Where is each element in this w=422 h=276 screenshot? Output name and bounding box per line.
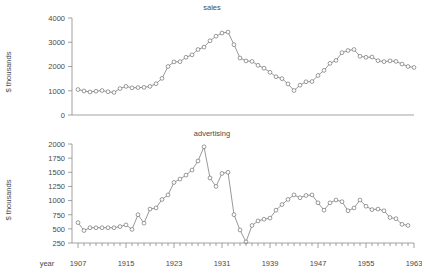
data-point-marker	[100, 89, 104, 93]
x-tick-label: 1907	[70, 259, 87, 268]
data-point-marker	[316, 201, 320, 205]
data-point-marker	[196, 48, 200, 52]
data-point-marker	[196, 159, 200, 163]
data-point-marker	[292, 89, 296, 93]
data-point-marker	[208, 176, 212, 180]
y-tick-label: 4000	[48, 14, 65, 23]
data-point-marker	[220, 31, 224, 35]
data-point-marker	[286, 82, 290, 86]
data-point-marker	[406, 224, 410, 228]
data-point-marker	[400, 62, 404, 66]
x-tick-label: 1939	[262, 259, 279, 268]
data-point-marker	[250, 60, 254, 64]
y-tick-label: 750	[52, 211, 65, 220]
data-point-marker	[106, 226, 110, 230]
data-point-marker	[292, 193, 296, 197]
data-point-marker	[376, 207, 380, 211]
data-point-marker	[82, 89, 86, 93]
data-point-marker	[154, 206, 158, 210]
data-point-marker	[178, 177, 182, 181]
advertising-panel: advertising $ thousands 2505007501000125…	[4, 129, 422, 268]
data-point-marker	[166, 65, 170, 69]
advertising-y-axis-label: $ thousands	[4, 179, 13, 220]
advertising-panel-title: advertising	[194, 129, 230, 138]
data-point-marker	[154, 82, 158, 86]
data-point-marker	[352, 48, 356, 52]
data-point-marker	[166, 193, 170, 197]
y-tick-label: 1500	[48, 168, 65, 177]
y-tick-label: 500	[52, 225, 65, 234]
x-tick-labels: 19071915192319311939194719551963	[70, 259, 422, 268]
data-point-marker	[358, 198, 362, 202]
data-point-marker	[286, 198, 290, 202]
data-point-marker	[172, 181, 176, 185]
data-point-marker	[124, 223, 128, 227]
data-point-marker	[226, 30, 230, 34]
y-tick-label: 2000	[48, 140, 65, 149]
data-point-marker	[322, 208, 326, 212]
x-axis-title: year	[40, 259, 55, 268]
data-point-marker	[304, 80, 308, 84]
data-point-marker	[94, 89, 98, 93]
data-point-marker	[130, 86, 134, 90]
data-point-marker	[334, 198, 338, 202]
data-point-marker	[100, 226, 104, 230]
data-point-marker	[310, 193, 314, 197]
data-point-marker	[76, 221, 80, 225]
y-tick-label: 1000	[48, 87, 65, 96]
data-point-marker	[262, 66, 266, 70]
data-point-marker	[298, 196, 302, 200]
data-point-marker	[142, 221, 146, 225]
x-tick-label: 1923	[166, 259, 183, 268]
data-point-marker	[304, 194, 308, 198]
data-point-marker	[382, 60, 386, 64]
data-point-marker	[388, 59, 392, 63]
y-tick-label: 1750	[48, 154, 65, 163]
data-point-marker	[394, 60, 398, 64]
data-point-marker	[400, 222, 404, 226]
sales-series	[76, 30, 416, 94]
data-point-marker	[310, 80, 314, 84]
data-point-marker	[244, 59, 248, 63]
data-point-marker	[358, 54, 362, 58]
data-point-marker	[406, 65, 410, 69]
series-polyline	[78, 147, 408, 242]
data-point-marker	[340, 51, 344, 55]
data-point-marker	[250, 224, 254, 228]
data-point-marker	[394, 217, 398, 221]
data-point-marker	[322, 68, 326, 72]
y-tick-label: 1250	[48, 182, 65, 191]
data-point-marker	[232, 213, 236, 217]
sales-panel: sales $ thousands 01000200030004000	[4, 3, 416, 120]
data-point-marker	[280, 203, 284, 207]
data-point-marker	[76, 88, 80, 92]
advertising-series	[76, 145, 410, 244]
data-point-marker	[370, 208, 374, 212]
data-point-marker	[106, 90, 110, 94]
data-point-marker	[238, 56, 242, 60]
data-point-marker	[148, 84, 152, 88]
data-point-marker	[376, 59, 380, 63]
x-tick-label: 1931	[214, 259, 231, 268]
data-point-marker	[412, 66, 416, 70]
data-point-marker	[190, 168, 194, 172]
y-tick-label: 2000	[48, 62, 65, 71]
data-point-marker	[340, 200, 344, 204]
data-point-marker	[160, 198, 164, 202]
y-tick-label: 1000	[48, 196, 65, 205]
data-point-marker	[328, 201, 332, 205]
data-point-marker	[352, 206, 356, 210]
data-point-marker	[238, 228, 242, 232]
data-point-marker	[268, 216, 272, 220]
data-point-marker	[316, 74, 320, 78]
data-point-marker	[208, 39, 212, 43]
data-point-marker	[298, 83, 302, 87]
data-point-marker	[232, 43, 236, 47]
data-point-marker	[88, 90, 92, 94]
data-point-marker	[256, 63, 260, 67]
data-point-marker	[346, 209, 350, 213]
x-tick-label: 1955	[358, 259, 375, 268]
data-point-marker	[214, 34, 218, 38]
data-point-marker	[136, 213, 140, 217]
data-point-marker	[118, 87, 122, 91]
